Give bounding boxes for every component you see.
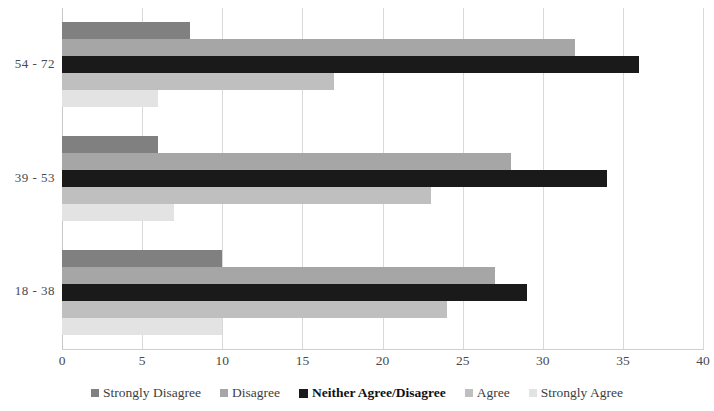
legend-item[interactable]: Disagree bbox=[220, 385, 280, 401]
bar-row bbox=[62, 170, 703, 187]
bar bbox=[62, 204, 174, 221]
x-tick-label-0: 0 bbox=[42, 353, 82, 369]
legend-item[interactable]: Neither Agree/Disagree bbox=[299, 385, 446, 401]
bar-row bbox=[62, 39, 703, 56]
bar-row bbox=[62, 204, 703, 221]
bar-group bbox=[0, 136, 714, 221]
legend-item[interactable]: Strongly Agree bbox=[529, 385, 623, 401]
bar bbox=[62, 301, 447, 318]
bar bbox=[62, 39, 575, 56]
bar bbox=[62, 73, 334, 90]
bar-row bbox=[62, 301, 703, 318]
bar bbox=[62, 90, 158, 107]
bar bbox=[62, 318, 222, 335]
x-tick-label-15: 15 bbox=[282, 353, 322, 369]
x-axis-line bbox=[62, 349, 704, 350]
bar-row bbox=[62, 56, 703, 73]
bar bbox=[62, 153, 511, 170]
legend-swatch-icon bbox=[465, 389, 473, 397]
bar-chart: 18 - 3839 - 5354 - 72 0510152025303540 S… bbox=[0, 0, 714, 411]
bar bbox=[62, 170, 607, 187]
bar-row bbox=[62, 153, 703, 170]
x-tick-label-5: 5 bbox=[122, 353, 162, 369]
bar bbox=[62, 136, 158, 153]
bar-row bbox=[62, 318, 703, 335]
legend-swatch-icon bbox=[529, 389, 537, 397]
x-tick-label-40: 40 bbox=[683, 353, 714, 369]
x-tick-label-25: 25 bbox=[443, 353, 483, 369]
chart-legend: Strongly DisagreeDisagreeNeither Agree/D… bbox=[0, 385, 714, 401]
x-tick-label-30: 30 bbox=[523, 353, 563, 369]
legend-item[interactable]: Agree bbox=[465, 385, 510, 401]
x-tick-label-10: 10 bbox=[202, 353, 242, 369]
bar-row bbox=[62, 90, 703, 107]
bar-row bbox=[62, 187, 703, 204]
bar-row bbox=[62, 136, 703, 153]
bar-group bbox=[0, 250, 714, 335]
bar bbox=[62, 284, 527, 301]
legend-swatch-icon bbox=[299, 389, 308, 398]
bar-group bbox=[0, 22, 714, 107]
legend-label: Strongly Disagree bbox=[103, 385, 201, 401]
legend-swatch-icon bbox=[220, 389, 228, 397]
bar bbox=[62, 267, 495, 284]
bar-row bbox=[62, 267, 703, 284]
bar-row bbox=[62, 73, 703, 90]
bar bbox=[62, 56, 639, 73]
legend-item[interactable]: Strongly Disagree bbox=[91, 385, 201, 401]
bar-row bbox=[62, 250, 703, 267]
bar bbox=[62, 250, 222, 267]
legend-label: Strongly Agree bbox=[541, 385, 623, 401]
legend-label: Agree bbox=[477, 385, 510, 401]
bar-row bbox=[62, 284, 703, 301]
legend-label: Disagree bbox=[232, 385, 280, 401]
bar-row bbox=[62, 22, 703, 39]
legend-label: Neither Agree/Disagree bbox=[312, 385, 446, 401]
x-tick-label-35: 35 bbox=[603, 353, 643, 369]
bar bbox=[62, 22, 190, 39]
legend-swatch-icon bbox=[91, 389, 99, 397]
bar bbox=[62, 187, 431, 204]
x-tick-label-20: 20 bbox=[363, 353, 403, 369]
